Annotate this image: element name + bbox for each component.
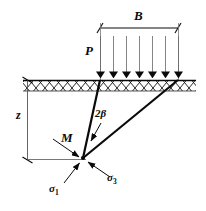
load-arrows-group: [101, 36, 179, 72]
label-point-M: M: [61, 131, 73, 144]
label-sigma-3: σ3: [107, 172, 117, 186]
label-apex-angle: 2β: [95, 108, 106, 119]
label-sigma-1: σ1: [49, 183, 59, 197]
sigma-3-subscript: 3: [113, 177, 117, 186]
label-width-B: B: [134, 9, 143, 22]
beta-leader-arrow: [91, 123, 101, 141]
label-depth-z: z: [16, 109, 21, 121]
diagram-svg: [0, 0, 206, 211]
figure-canvas: B P z 2β M σ1 σ3: [0, 0, 206, 211]
sigma1-arrow: [64, 163, 80, 183]
point-M-marker: [81, 156, 85, 160]
stress-wedge-group: [81, 80, 178, 160]
depth-dimension-group: [27, 80, 86, 160]
sigma-1-subscript: 1: [55, 188, 59, 197]
label-load-P: P: [85, 44, 93, 57]
